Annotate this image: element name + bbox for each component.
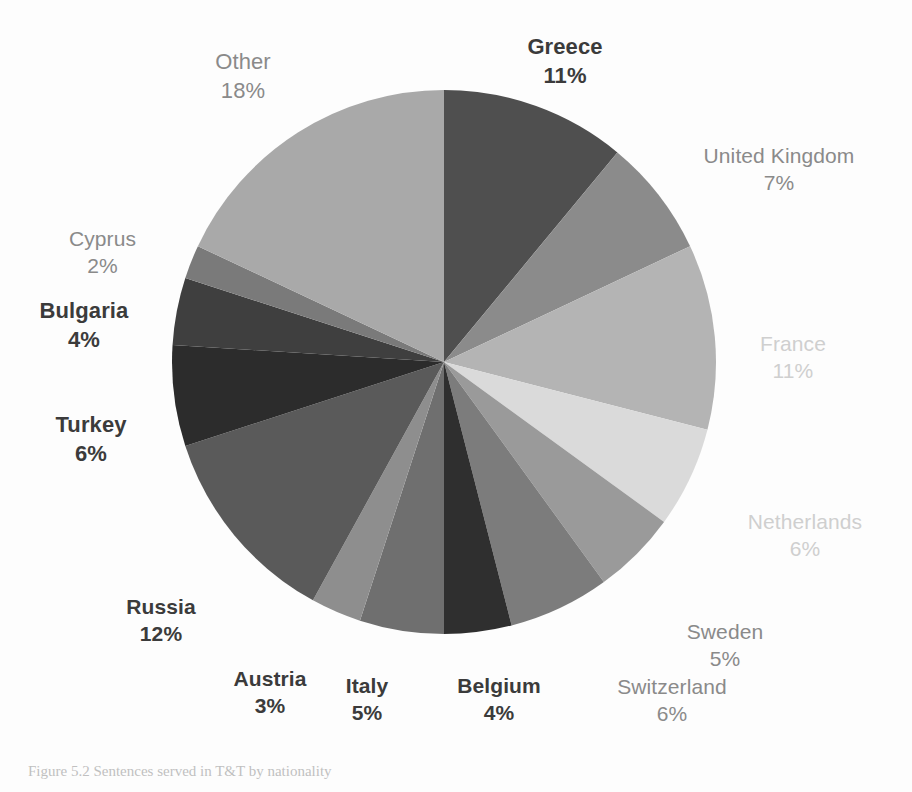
pie-label-bulgaria-value: 4% xyxy=(4,326,164,355)
pie-label-greece-name: Greece xyxy=(470,33,660,62)
pie-label-russia-value: 12% xyxy=(86,620,236,647)
pie-label-bulgaria: Bulgaria 4% xyxy=(4,297,164,354)
pie-label-switzerland-name: Switzerland xyxy=(572,673,772,700)
pie-label-cyprus: Cyprus 2% xyxy=(30,225,175,280)
pie-label-netherlands-value: 6% xyxy=(700,535,910,562)
pie-label-russia: Russia 12% xyxy=(86,593,236,648)
pie-label-austria: Austria 3% xyxy=(200,665,340,720)
pie-label-austria-value: 3% xyxy=(200,692,340,719)
pie-label-other-name: Other xyxy=(168,48,318,77)
pie-label-austria-name: Austria xyxy=(200,665,340,692)
pie-label-other-value: 18% xyxy=(168,77,318,106)
figure-caption: Figure 5.2 Sentences served in T&T by na… xyxy=(28,766,498,792)
pie-label-belgium-name: Belgium xyxy=(424,672,574,699)
pie-label-greece-value: 11% xyxy=(470,62,660,91)
pie-label-united-kingdom-value: 7% xyxy=(664,169,894,196)
pie-chart xyxy=(170,88,718,636)
pie-label-netherlands-name: Netherlands xyxy=(700,508,910,535)
pie-label-france: France 11% xyxy=(718,330,868,385)
pie-label-turkey-name: Turkey xyxy=(16,411,166,440)
pie-label-sweden-value: 5% xyxy=(650,645,800,672)
pie-label-cyprus-value: 2% xyxy=(30,252,175,279)
figure-caption-text: Figure 5.2 Sentences served in T&T by na… xyxy=(28,766,332,780)
pie-label-france-value: 11% xyxy=(718,357,868,384)
pie-label-greece: Greece 11% xyxy=(470,33,660,90)
pie-chart-figure: Greece 11% United Kingdom 7% France 11% … xyxy=(0,0,912,792)
pie-label-united-kingdom-name: United Kingdom xyxy=(664,142,894,169)
pie-label-france-name: France xyxy=(718,330,868,357)
pie-label-sweden: Sweden 5% xyxy=(650,618,800,673)
pie-label-other: Other 18% xyxy=(168,48,318,105)
pie-label-belgium-value: 4% xyxy=(424,699,574,726)
pie-label-bulgaria-name: Bulgaria xyxy=(4,297,164,326)
pie-label-united-kingdom: United Kingdom 7% xyxy=(664,142,894,197)
pie-label-switzerland: Switzerland 6% xyxy=(572,673,772,728)
pie-slice-group xyxy=(172,90,716,634)
pie-label-turkey: Turkey 6% xyxy=(16,411,166,468)
pie-label-netherlands: Netherlands 6% xyxy=(700,508,910,563)
pie-label-switzerland-value: 6% xyxy=(572,700,772,727)
pie-label-turkey-value: 6% xyxy=(16,440,166,469)
pie-label-russia-name: Russia xyxy=(86,593,236,620)
pie-label-cyprus-name: Cyprus xyxy=(30,225,175,252)
pie-label-belgium: Belgium 4% xyxy=(424,672,574,727)
pie-label-sweden-name: Sweden xyxy=(650,618,800,645)
pie-chart-svg xyxy=(170,88,718,636)
